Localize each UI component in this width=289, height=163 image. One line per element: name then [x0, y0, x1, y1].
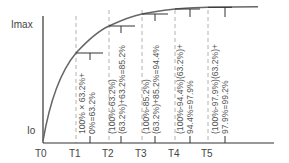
tick-t5: T5: [201, 148, 213, 159]
tick-t0: T0: [35, 148, 47, 159]
annotation-2-line1: (100%-63.2%): [107, 79, 117, 134]
annotation-3-line2: (63.2%)+85.2%=94.4%: [151, 45, 161, 134]
annotation-1: 100% × 63.2%+ 0%=63.2%: [77, 73, 97, 134]
tick-t1: T1: [69, 148, 81, 159]
annotation-5-line1: (100%-97.9%)(63.2%)+: [210, 44, 220, 134]
annotation-5: (100%-97.9%)(63.2%)+ 97.9%=99.2%: [210, 44, 230, 134]
x-tick-labels: T0 T1 T2 T3 T4 T5: [35, 148, 213, 159]
imax-label: Imax: [11, 19, 33, 30]
annotation-3-line1: (100%-85.2%): [141, 79, 151, 134]
annotation-4-line2: 94.4%=97.9%: [185, 80, 195, 134]
io-label: Io: [27, 125, 36, 136]
tick-t2: T2: [102, 148, 114, 159]
annotation-1-line2: 0%=63.2%: [87, 92, 97, 134]
annotation-5-line2: 97.9%=99.2%: [220, 80, 230, 134]
tick-t4: T4: [168, 148, 180, 159]
annotation-3: (100%-85.2%) (63.2%)+85.2%=94.4%: [141, 45, 161, 134]
tick-t3: T3: [135, 148, 147, 159]
rc-charge-curve-diagram: Imax Io T0 T1 T2 T3 T4 T5 100% × 63.2%+ …: [0, 0, 289, 163]
annotation-1-line1: 100% × 63.2%+: [77, 73, 87, 134]
annotation-4-line1: (100%-94.4%)(63.2%)+: [175, 44, 185, 134]
annotation-4: (100%-94.4%)(63.2%)+ 94.4%=97.9%: [175, 44, 195, 134]
annotation-2-line2: (63.2%)+63.2%=85.2%: [117, 45, 127, 134]
annotation-2: (100%-63.2%) (63.2%)+63.2%=85.2%: [107, 45, 127, 134]
